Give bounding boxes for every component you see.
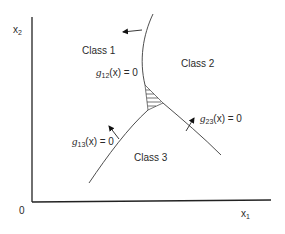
boundary-g23-label: g23(x) = 0 <box>200 113 242 125</box>
class-2-label: Class 2 <box>181 59 214 69</box>
class-3-label: Class 3 <box>134 153 167 163</box>
decision-boundary-diagram <box>0 0 285 234</box>
boundary-g23-curve <box>163 103 221 155</box>
boundary-g13-label: g13(x) = 0 <box>72 136 114 148</box>
y-axis-label: x2 <box>13 25 22 36</box>
x-axis-label: x1 <box>241 209 250 220</box>
boundary-g12-curve <box>142 14 153 85</box>
boundary-g12-label: g12(x) = 0 <box>96 67 138 79</box>
ambiguous-region-hatch <box>145 85 163 110</box>
class-1-label: Class 1 <box>82 46 115 56</box>
g12-normal-arrow-icon <box>123 30 142 32</box>
x-axis <box>32 200 271 202</box>
origin-label: 0 <box>19 206 25 216</box>
